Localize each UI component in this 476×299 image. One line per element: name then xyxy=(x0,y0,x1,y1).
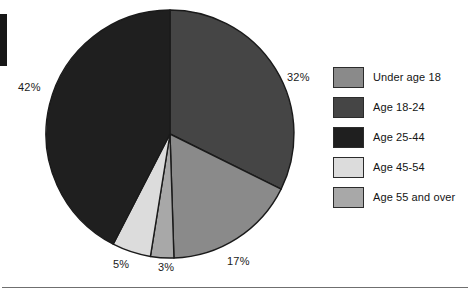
legend-item-age-18-24: Age 18-24 xyxy=(333,96,476,118)
slice-label-age-55-and-over: 3% xyxy=(158,261,174,273)
legend-item-age-55-and-over: Age 55 and over xyxy=(333,186,476,208)
chart-legend: Under age 18 Age 18-24 Age 25-44 Age 45-… xyxy=(333,66,476,216)
legend-item-label: Age 18-24 xyxy=(373,101,425,113)
chart-page: 42% 32% 17% 5% 3% Under age 18 Age 18-24… xyxy=(0,0,476,299)
legend-swatch-icon xyxy=(333,67,364,88)
slice-label-age-45-54: 5% xyxy=(113,258,129,270)
legend-item-under-age-18: Under age 18 xyxy=(333,66,476,88)
legend-item-label: Age 55 and over xyxy=(373,191,455,203)
pie-slice-group xyxy=(46,10,294,258)
page-divider-rule xyxy=(2,287,468,288)
slice-label-age-18-24: 32% xyxy=(287,71,310,83)
legend-item-age-45-54: Age 45-54 xyxy=(333,156,476,178)
legend-item-label: Age 45-54 xyxy=(373,161,425,173)
legend-swatch-icon xyxy=(333,187,364,208)
pie-chart xyxy=(44,8,296,260)
legend-swatch-icon xyxy=(333,127,364,148)
legend-swatch-icon xyxy=(333,157,364,178)
pie-chart-svg xyxy=(44,8,296,260)
legend-item-age-25-44: Age 25-44 xyxy=(333,126,476,148)
legend-item-label: Under age 18 xyxy=(373,71,441,83)
legend-item-label: Age 25-44 xyxy=(373,131,425,143)
slice-label-under-age-18: 17% xyxy=(227,255,250,267)
scan-edge-artifact xyxy=(0,14,7,66)
legend-swatch-icon xyxy=(333,97,364,118)
slice-label-age-25-44: 42% xyxy=(18,81,41,93)
